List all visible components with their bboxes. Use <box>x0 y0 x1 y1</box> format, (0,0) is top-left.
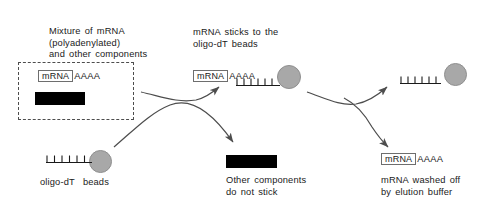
oligo-dt-beads-label: oligo-dT beads <box>40 177 109 189</box>
input-poly-a-tail: AAAA <box>74 71 100 81</box>
sticks-caption-line2: oligo-dT beads <box>193 39 258 51</box>
mixture-caption-line1: Mixture of mRNA <box>49 26 125 38</box>
other-components-caption-line2: do not stick <box>226 187 278 199</box>
sticks-caption-line1: mRNA sticks to the <box>193 27 278 39</box>
eluted-poly-a-tail: AAAA <box>417 154 443 164</box>
arrow-mixture-to-bound <box>141 87 219 101</box>
eluted-mrna-box-label: mRNA <box>381 153 416 165</box>
arrow-complex-to-eluted-mrna <box>344 98 388 147</box>
oligo-dt-bead-bound <box>277 65 301 89</box>
oligo-dt-bead-eluted <box>444 63 467 86</box>
other-components-caption-line1: Other components <box>226 175 306 187</box>
input-other-components-bar <box>35 92 85 105</box>
bound-poly-a-tail: AAAA <box>229 71 255 81</box>
eluted-mrna-molecule: mRNA AAAA <box>381 152 443 166</box>
input-mrna-box-label: mRNA <box>38 70 73 82</box>
oligo-dt-bead-start <box>89 150 112 173</box>
washed-caption-line1: mRNA washed off <box>381 175 460 187</box>
mixture-caption-line3: and other components <box>49 49 147 61</box>
bound-mrna-box-label: mRNA <box>193 70 228 82</box>
bound-mrna-molecule: mRNA AAAA <box>193 69 255 83</box>
mrna-purification-diagram: Mixture of mRNA (polyadenylated) and oth… <box>0 0 488 210</box>
mixture-caption-line2: (polyadenylated) <box>49 38 120 50</box>
arrow-complex-to-bead <box>307 87 387 104</box>
unbound-other-components-bar <box>226 155 277 168</box>
input-mrna-molecule: mRNA AAAA <box>38 69 100 83</box>
washed-caption-line2: by elution buffer <box>381 187 452 199</box>
